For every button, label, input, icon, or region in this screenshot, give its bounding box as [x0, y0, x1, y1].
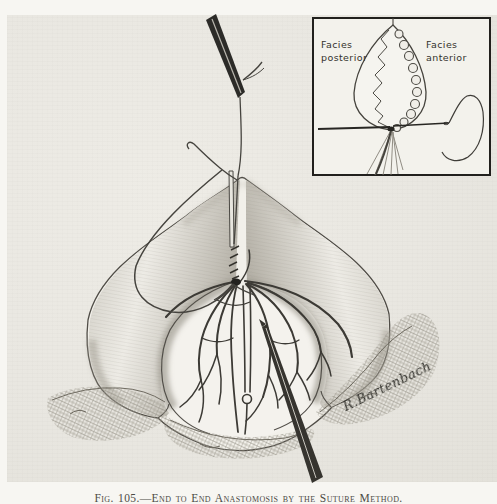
facies-anterior-line1: Facies — [426, 38, 467, 51]
inset-label-facies-anterior: Facies anterior — [426, 38, 467, 64]
inset-label-facies-posterior: Facies posterior — [321, 38, 367, 64]
needle-holder — [206, 14, 245, 98]
surgical-illustration — [0, 0, 497, 504]
scanned-book-page: Facies posterior Facies anterior R.Barte… — [0, 0, 497, 504]
figure-caption: Fig. 105.—End to End Anastomosis by the … — [0, 492, 497, 504]
facies-anterior-line2: anterior — [426, 51, 467, 64]
apex-pin — [229, 171, 234, 247]
facies-posterior-line1: Facies — [321, 38, 367, 51]
facies-posterior-line2: posterior — [321, 51, 367, 64]
inset-knot — [388, 127, 395, 132]
